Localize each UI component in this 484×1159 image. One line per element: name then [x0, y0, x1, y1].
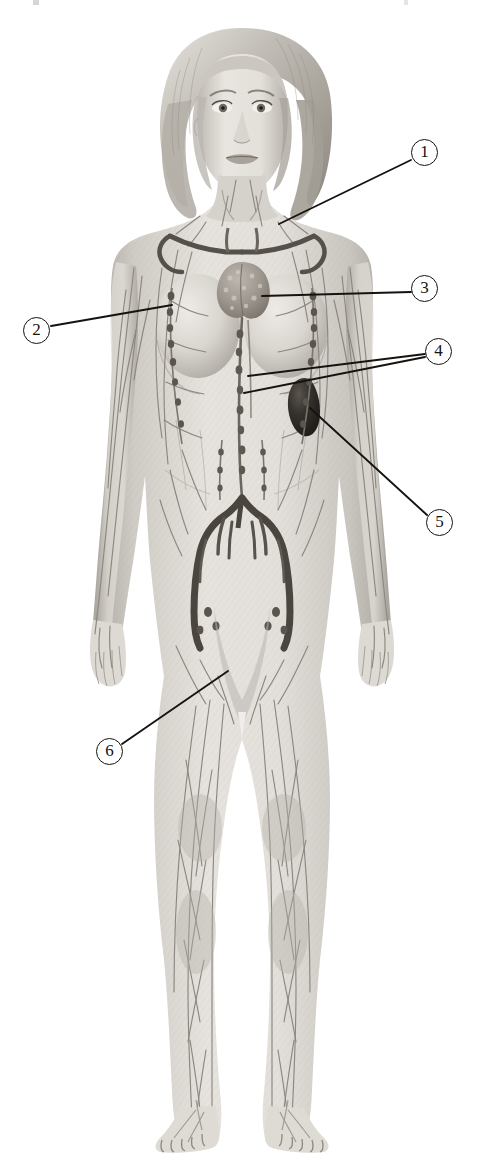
thymus — [217, 262, 270, 319]
scan-artifact — [404, 0, 408, 5]
lymphatic-system-figure: 1 2 3 4 5 6 — [0, 0, 484, 1159]
callout-1[interactable]: 1 — [411, 139, 438, 166]
callout-4[interactable]: 4 — [425, 338, 452, 365]
callout-6[interactable]: 6 — [96, 738, 123, 765]
callout-3[interactable]: 3 — [411, 275, 438, 302]
callout-5[interactable]: 5 — [426, 509, 453, 536]
neck — [206, 176, 278, 222]
scan-artifact — [33, 0, 39, 5]
callout-2[interactable]: 2 — [23, 317, 50, 344]
anatomy-illustration — [0, 0, 484, 1159]
